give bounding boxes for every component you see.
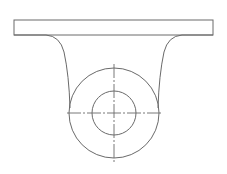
right-flank-curve [158, 35, 213, 108]
technical-drawing-canvas [0, 0, 227, 174]
left-flank-curve [14, 35, 70, 108]
base-plate [14, 20, 213, 35]
